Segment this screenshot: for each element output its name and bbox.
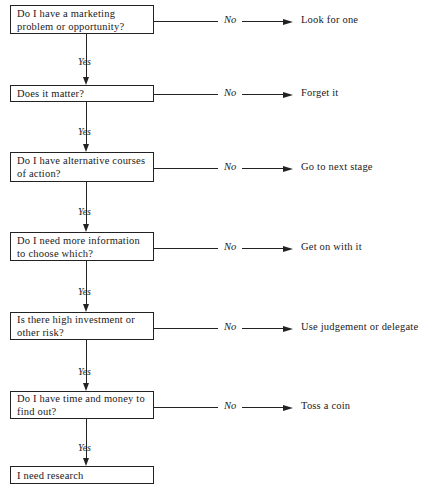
no-label-4: No [224,241,236,252]
outcome-5: Use judgement or delegate [301,321,418,332]
no-label-2: No [224,87,236,98]
yes-label-4: Yes [78,286,91,297]
question-1: Do I have a marketing problem or opportu… [17,7,137,33]
no-arrow-line-1 [242,21,284,22]
no-connector-3 [154,168,218,169]
no-connector-4 [154,248,218,249]
no-connector-5 [154,328,218,329]
arrow-right-icon [283,19,293,25]
arrow-right-icon [283,405,293,411]
yes-connector-5 [86,340,87,384]
no-arrow-line-5 [242,328,284,329]
arrow-down-icon [83,458,89,466]
no-connector-6 [154,407,218,408]
no-arrow-line-4 [242,248,284,249]
decision-box-3: Do I have alternative courses of action? [10,152,154,182]
decision-box-4: Do I need more information to choose whi… [10,232,154,261]
question-4: Do I need more information to choose whi… [17,234,147,260]
no-label-1: No [224,14,236,25]
arrow-down-icon [83,224,89,232]
decision-box-5: Is there high investment or other risk? [10,312,154,340]
yes-connector-4 [86,261,87,305]
outcome-3: Go to next stage [301,161,373,172]
yes-connector-2 [86,102,87,145]
no-label-6: No [224,400,236,411]
no-arrow-line-6 [242,407,284,408]
decision-box-6: Do I have time and money to find out? [10,391,154,419]
question-6: Do I have time and money to find out? [17,392,147,418]
decision-box-2: Does it matter? [10,85,154,102]
no-arrow-line-2 [242,94,284,95]
yes-connector-3 [86,182,87,225]
no-connector-1 [154,21,218,22]
question-3: Do I have alternative courses of action? [17,154,147,180]
question-5: Is there high investment or other risk? [17,313,147,339]
arrow-down-icon [83,77,89,85]
arrow-down-icon [83,383,89,391]
yes-connector-6 [86,419,87,459]
no-label-5: No [224,321,236,332]
yes-label-5: Yes [78,366,91,377]
outcome-4: Get on with it [301,241,362,252]
question-2: Does it matter? [17,87,84,100]
yes-label-6: Yes [78,442,91,453]
arrow-right-icon [283,326,293,332]
arrow-down-icon [83,144,89,152]
decision-box-1: Do I have a marketing problem or opportu… [10,5,154,34]
yes-label-3: Yes [78,206,91,217]
arrow-right-icon [283,92,293,98]
final-box: I need research [10,466,154,484]
no-arrow-line-3 [242,168,284,169]
outcome-1: Look for one [301,14,358,25]
no-label-3: No [224,161,236,172]
arrow-right-icon [283,246,293,252]
outcome-2: Forget it [301,87,338,98]
yes-label-1: Yes [78,56,91,67]
arrow-down-icon [83,304,89,312]
no-connector-2 [154,94,218,95]
final-result: I need research [17,469,84,482]
yes-label-2: Yes [78,126,91,137]
arrow-right-icon [283,166,293,172]
outcome-6: Toss a coin [301,400,350,411]
